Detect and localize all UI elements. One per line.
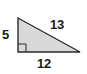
side-label-horizontal-leg: 12	[37, 57, 51, 70]
triangle-shape	[18, 18, 80, 52]
right-triangle-figure: 5 13 12	[0, 0, 87, 74]
side-label-hypotenuse: 13	[50, 18, 64, 31]
side-label-vertical-leg: 5	[2, 28, 9, 41]
